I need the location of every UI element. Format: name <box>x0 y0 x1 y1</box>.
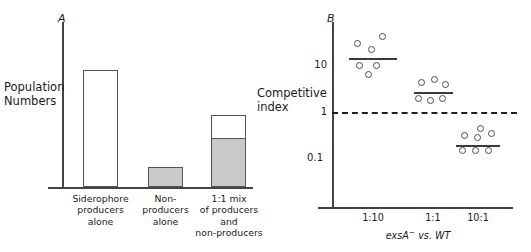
data-point <box>472 147 479 154</box>
bar-label-line: and <box>189 216 269 227</box>
x-axis-title-rest: vs. WT <box>415 230 450 241</box>
data-point <box>477 125 484 132</box>
data-point <box>431 76 438 83</box>
data-point <box>442 81 449 88</box>
bar-label-mix: 1:1 mix of producers and non-producers <box>189 193 269 239</box>
data-point <box>373 62 380 69</box>
panel-a-y-axis-label-line2: Numbers <box>4 94 64 108</box>
reference-line-index-1 <box>332 112 517 114</box>
panel-b-y-axis-label-line1: Competitive <box>257 86 333 100</box>
panel-b-x-axis <box>318 207 513 209</box>
panel-b: B Competitive index 10 1 0.1 <box>265 0 531 252</box>
data-point <box>379 33 386 40</box>
panel-a-y-axis-label-line1: Population <box>4 80 64 94</box>
x-category-label-1-1: 1:1 <box>410 212 456 223</box>
data-point <box>474 134 481 141</box>
data-point <box>368 46 375 53</box>
mean-bar-group-1-10 <box>349 58 397 60</box>
data-point <box>485 147 492 154</box>
bar-mix-gray-segment <box>211 138 246 187</box>
panel-a-y-axis-label: Population Numbers <box>4 80 64 108</box>
bar-label-line: non-producers <box>189 227 269 238</box>
data-point <box>365 71 372 78</box>
bar-label-line: 1:1 mix <box>189 193 269 204</box>
data-point <box>356 62 363 69</box>
data-point <box>461 132 468 139</box>
data-point <box>488 130 495 137</box>
panel-a: A Population Numbers Siderophore produce… <box>0 0 265 252</box>
data-point <box>418 79 425 86</box>
y-tick-label-0.1: 0.1 <box>295 152 323 163</box>
y-tick-label-1: 1 <box>299 106 327 117</box>
panel-b-x-axis-title: exsA− vs. WT <box>318 228 518 241</box>
bar-siderophore-producers-alone <box>83 70 118 187</box>
data-point <box>459 147 466 154</box>
y-tick-label-10: 10 <box>299 59 327 70</box>
data-point <box>354 40 361 47</box>
x-category-label-1-10: 1:10 <box>350 212 396 223</box>
data-point <box>427 97 434 104</box>
bar-non-producers-alone <box>148 167 183 187</box>
data-point <box>439 95 446 102</box>
data-point <box>415 95 422 102</box>
x-axis-title-gene: exsA <box>386 230 409 241</box>
figure-root: A Population Numbers Siderophore produce… <box>0 0 531 252</box>
bar-label-line: of producers <box>189 204 269 215</box>
x-category-label-10-1: 10:1 <box>455 212 501 223</box>
panel-b-y-axis <box>332 22 334 208</box>
panel-a-x-axis <box>48 187 253 189</box>
bar-mix-white-segment <box>211 115 246 139</box>
mean-bar-group-1-1 <box>414 92 453 94</box>
